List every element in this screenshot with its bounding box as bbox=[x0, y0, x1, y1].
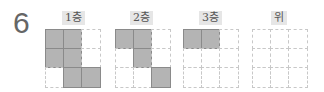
grid-floor-2 bbox=[115, 29, 170, 87]
grid-cell-empty bbox=[151, 48, 170, 68]
grid-cell-filled bbox=[133, 29, 152, 49]
label-floor-3: 3층 bbox=[199, 11, 222, 25]
grid-cell-filled bbox=[81, 67, 100, 87]
grid-floor-1 bbox=[45, 29, 100, 87]
grid-cell-empty[interactable] bbox=[288, 29, 307, 49]
grid-cell-empty bbox=[151, 29, 170, 49]
grid-cell-empty bbox=[219, 29, 238, 49]
grid-cell-empty bbox=[45, 67, 64, 87]
grid-cell-empty[interactable] bbox=[270, 48, 289, 68]
grid-cell-filled bbox=[115, 29, 134, 49]
label-floor-1: 1층 bbox=[62, 11, 85, 25]
grid-cell-empty bbox=[219, 67, 238, 87]
grid-cell-empty bbox=[183, 67, 202, 87]
grid-floor-3 bbox=[183, 29, 238, 87]
grid-cell-empty bbox=[183, 48, 202, 68]
grid-cell-empty bbox=[115, 67, 134, 87]
grid-cell-filled bbox=[201, 29, 220, 49]
grid-cell-empty bbox=[219, 48, 238, 68]
grid-cell-empty bbox=[133, 67, 152, 87]
grid-cell-empty[interactable] bbox=[270, 67, 289, 87]
grid-cell-empty[interactable] bbox=[252, 48, 271, 68]
grid-cell-empty bbox=[201, 48, 220, 68]
label-top-view: 위 bbox=[271, 11, 287, 25]
grid-cell-empty[interactable] bbox=[252, 29, 271, 49]
grid-cell-empty bbox=[81, 29, 100, 49]
grid-cell-empty[interactable] bbox=[288, 48, 307, 68]
grid-cell-empty[interactable] bbox=[270, 29, 289, 49]
grid-cell-empty bbox=[81, 48, 100, 68]
grid-cell-filled bbox=[63, 29, 82, 49]
grid-cell-empty[interactable] bbox=[252, 67, 271, 87]
label-floor-2: 2층 bbox=[130, 11, 153, 25]
grid-cell-empty bbox=[201, 67, 220, 87]
grid-cell-filled bbox=[63, 48, 82, 68]
grid-cell-filled bbox=[45, 48, 64, 68]
grid-top-view[interactable] bbox=[252, 29, 307, 87]
grid-cell-empty[interactable] bbox=[288, 67, 307, 87]
grid-cell-filled bbox=[133, 48, 152, 68]
grid-cell-filled bbox=[63, 67, 82, 87]
question-number: 6 bbox=[13, 8, 30, 38]
grid-cell-empty bbox=[115, 48, 134, 68]
grid-cell-filled bbox=[45, 29, 64, 49]
grid-cell-filled bbox=[151, 67, 170, 87]
grid-cell-filled bbox=[183, 29, 202, 49]
